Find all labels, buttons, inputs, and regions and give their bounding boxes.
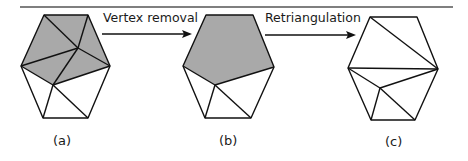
arrow-vertex-removal-label: Vertex removal [103,10,198,25]
panel-b-label: (b) [219,133,237,148]
arrow-retriangulation: Retriangulation [265,10,361,39]
panel-c-mesh [348,17,438,120]
diagram-svg: (a) Vertex removal (b) Retriangulation (… [0,0,468,161]
diagram-canvas: (a) Vertex removal (b) Retriangulation (… [0,0,468,161]
panel-a-label: (a) [53,133,71,148]
arrow-vertex-removal: Vertex removal [102,10,198,38]
panel-a-mesh [21,15,110,118]
arrow-retriangulation-label: Retriangulation [265,10,361,25]
panel-c-label: (c) [385,134,402,149]
panel-b-mesh [183,15,274,118]
